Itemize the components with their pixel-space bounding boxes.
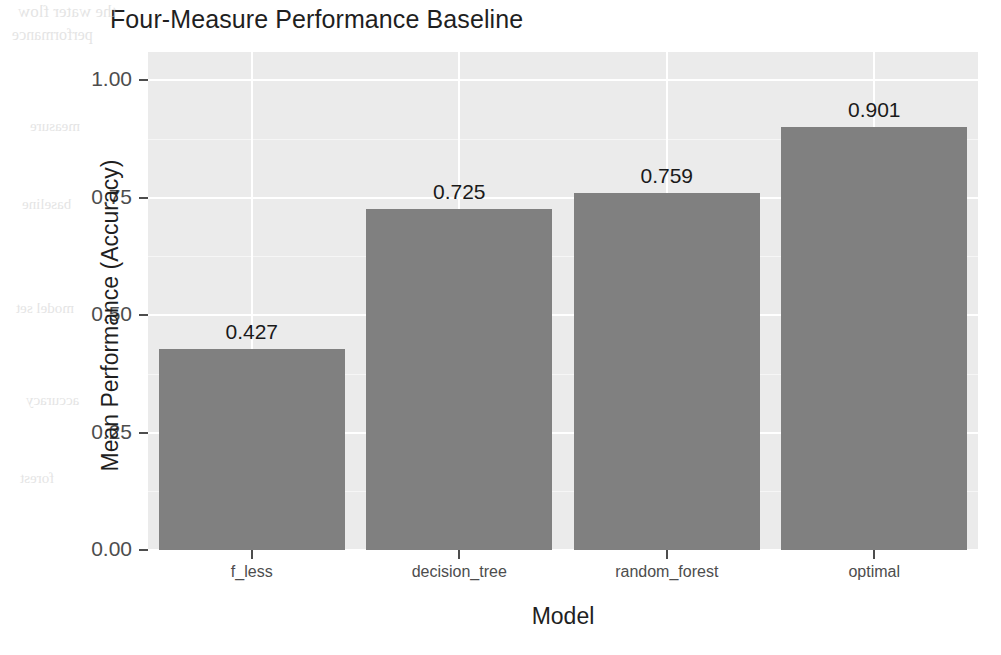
bar-optimal [781,127,967,550]
plot-panel: 0.4270.7250.7590.901 [148,52,978,550]
bar-decision_tree [366,209,552,550]
x-axis-title: Model [148,603,978,630]
y-tick-mark [139,197,148,199]
y-axis: 0.000.250.500.751.00 Mean Performance (A… [60,52,148,550]
x-tick-label-f_less: f_less [231,563,273,581]
x-tick-label-optimal: optimal [848,563,900,581]
chart-title: Four-Measure Performance Baseline [110,5,523,34]
bar-chart-figure: Four-Measure Performance Baseline 0.4270… [0,0,1001,655]
y-tick-mark [139,314,148,316]
x-tick-mark [458,550,460,559]
x-tick-mark [251,550,253,559]
bar-random_forest [574,193,760,550]
y-axis-title: Mean Performance (Accuracy) [97,76,124,556]
x-tick-label-decision_tree: decision_tree [412,563,507,581]
x-tick-mark [666,550,668,559]
bar-value-label-random_forest: 0.759 [563,164,771,188]
y-tick-mark [139,432,148,434]
x-tick-mark [873,550,875,559]
x-tick-label-random_forest: random_forest [615,563,718,581]
y-tick-mark [139,79,148,81]
y-tick-mark [139,549,148,551]
bar-f_less [159,349,345,550]
bar-value-label-decision_tree: 0.725 [356,180,564,204]
bar-value-label-optimal: 0.901 [771,98,979,122]
x-axis: f_lessdecision_treerandom_forestoptimal [148,550,978,610]
bar-value-label-f_less: 0.427 [148,320,356,344]
gridline-major-y [148,79,978,81]
